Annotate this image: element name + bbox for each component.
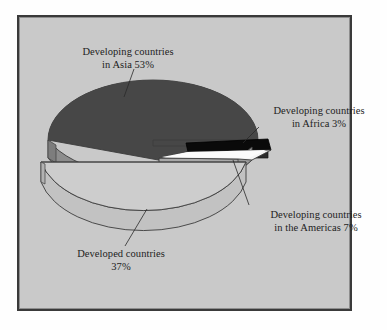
- label-americas-line2: in the Americas 7%: [248, 222, 384, 235]
- label-americas-line1: Developing countries: [248, 209, 384, 222]
- label-africa: Developing countries in Africa 3%: [253, 105, 385, 130]
- label-developed-line1: Developed countries: [53, 248, 189, 261]
- pie-slice-asia-top-face: [48, 80, 258, 144]
- label-africa-line2: in Africa 3%: [253, 118, 385, 131]
- label-asia-line2: in Asia 53%: [58, 59, 198, 72]
- label-developed: Developed countries 37%: [53, 248, 189, 273]
- label-americas: Developing countries in the Americas 7%: [248, 209, 384, 234]
- label-africa-line1: Developing countries: [253, 105, 385, 118]
- pie-slice-developed[interactable]: [41, 162, 246, 231]
- label-developed-line2: 37%: [53, 261, 189, 274]
- pie-slice-developed-side-left: [41, 162, 45, 184]
- chart-canvas: Developing countries in Asia 53% Develop…: [0, 0, 387, 330]
- label-asia: Developing countries in Asia 53%: [58, 46, 198, 71]
- label-asia-line1: Developing countries: [58, 46, 198, 59]
